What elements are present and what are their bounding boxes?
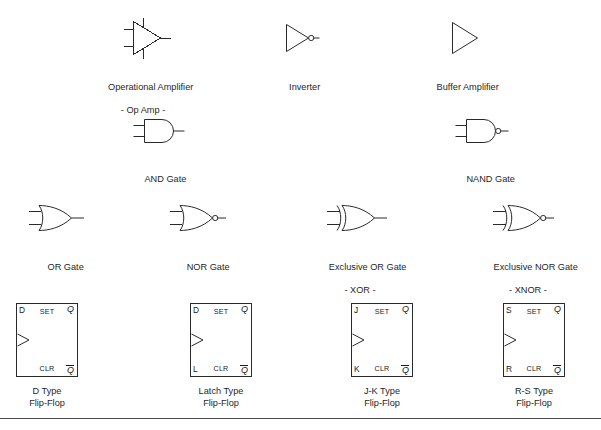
flip-flop-latch-type: D SET Q L CLR Q Latch Type Flip-Flop [190,303,252,409]
ff-jk-j-input-label: J [354,306,358,315]
buffer-amplifier-caption: Buffer Amplifier [421,70,498,105]
flip-flop-d-type: D SET Q CLR Q D Type Flip-Flop [16,303,78,409]
nor-gate-caption-line1: NOR Gate [187,262,230,272]
or-gate-caption-line1: OR Gate [48,262,84,272]
footer-divider [0,418,601,419]
inverter-caption-line1: Inverter [289,82,320,92]
nand-gate-caption-line1: NAND Gate [466,174,515,184]
and-gate-icon [122,112,194,150]
ff-d-set-label: SET [40,307,55,316]
ff-latch-qbar-output-label: Q [241,366,248,375]
nor-gate-icon [162,198,240,238]
clock-input-icon [504,331,520,349]
xor-gate-icon [321,198,399,238]
flip-flop-jk-type-caption: J-K Type Flip-Flop [351,386,413,409]
ff-jk-caption-line2: Flip-Flop [351,398,413,410]
inverter-caption: Inverter [274,70,320,105]
symbol-cell-nor-gate: NOR Gate [148,198,253,285]
buffer-amplifier-icon [434,16,486,60]
inverter-icon [269,16,325,60]
flip-flop-box: J SET Q K CLR Q [351,303,413,377]
symbol-cell-nand-gate: NAND Gate [428,112,538,197]
ff-rs-q-output-label: Q [554,305,561,314]
symbol-cell-or-gate: OR Gate [8,198,108,285]
ff-latch-caption-line1: Latch Type [190,386,252,398]
flip-flop-d-type-caption: D Type Flip-Flop [16,386,78,409]
nand-gate-caption: NAND Gate [451,162,515,197]
clock-input-icon [352,331,368,349]
symbol-cell-inverter: Inverter [247,16,347,105]
clock-input-icon [17,331,33,349]
symbol-cell-buffer: Buffer Amplifier [405,16,515,105]
ff-rs-qbar-output-label: Q [554,366,561,375]
symbol-sheet: Operational Amplifier - Op Amp - Inverte… [0,0,601,430]
ff-rs-r-input-label: R [506,365,512,374]
ff-d-qbar-output-label: Q [67,366,74,375]
ff-rs-caption-line2: Flip-Flop [503,398,565,410]
ff-latch-set-label: SET [214,307,229,316]
ff-rs-clr-label: CLR [527,364,542,373]
ff-latch-q-output-label: Q [241,305,248,314]
buffer-amplifier-caption-line1: Buffer Amplifier [437,82,499,92]
xnor-gate-icon [487,198,569,238]
ff-jk-caption-line1: J-K Type [351,386,413,398]
symbol-cell-xor-gate: Exclusive OR Gate - XOR - [300,198,420,319]
ff-rs-caption-line1: R-S Type [503,386,565,398]
ff-d-caption-line2: Flip-Flop [16,398,78,410]
xnor-gate-caption-line1: Exclusive NOR Gate [494,262,578,272]
ff-d-q-output-label: Q [67,305,74,314]
and-gate-caption: AND Gate [130,162,187,197]
or-gate-icon [21,198,95,238]
ff-latch-d-input-label: D [193,306,199,315]
ff-jk-qbar-output-label: Q [402,366,409,375]
ff-latch-caption-line2: Flip-Flop [190,398,252,410]
clock-input-icon [191,331,207,349]
ff-jk-q-output-label: Q [402,305,409,314]
ff-rs-s-input-label: S [506,306,512,315]
ff-d-clr-label: CLR [40,364,55,373]
and-gate-caption-line1: AND Gate [144,174,186,184]
ff-jk-clr-label: CLR [375,364,390,373]
flip-flop-jk-type: J SET Q K CLR Q J-K Type Flip-Flop [351,303,413,409]
or-gate-caption: OR Gate [32,250,84,285]
xnor-gate-caption-line2: - XNOR - [478,285,578,297]
symbol-cell-and-gate: AND Gate [108,112,208,197]
op-amp-icon [107,16,179,60]
ff-d-caption-line1: D Type [16,386,78,398]
flip-flop-latch-type-caption: Latch Type Flip-Flop [190,386,252,409]
nand-gate-icon [444,112,522,150]
xor-gate-caption-line2: - XOR - [314,285,407,297]
flip-flop-rs-type-caption: R-S Type Flip-Flop [503,386,565,409]
ff-latch-clr-label: CLR [214,364,229,373]
ff-jk-set-label: SET [375,307,390,316]
ff-d-input-label: D [19,306,25,315]
ff-latch-l-input-label: L [193,365,198,374]
flip-flop-box: D SET Q CLR Q [16,303,78,377]
symbol-cell-xnor-gate: Exclusive NOR Gate - XNOR - [465,198,591,319]
flip-flop-rs-type: S SET Q R CLR Q R-S Type Flip-Flop [503,303,565,409]
nor-gate-caption: NOR Gate [171,250,229,285]
flip-flop-box: S SET Q R CLR Q [503,303,565,377]
ff-jk-k-input-label: K [354,365,360,374]
flip-flop-box: D SET Q L CLR Q [190,303,252,377]
xor-gate-caption-line1: Exclusive OR Gate [329,262,407,272]
ff-rs-set-label: SET [527,307,542,316]
op-amp-caption-line1: Operational Amplifier [108,82,193,92]
